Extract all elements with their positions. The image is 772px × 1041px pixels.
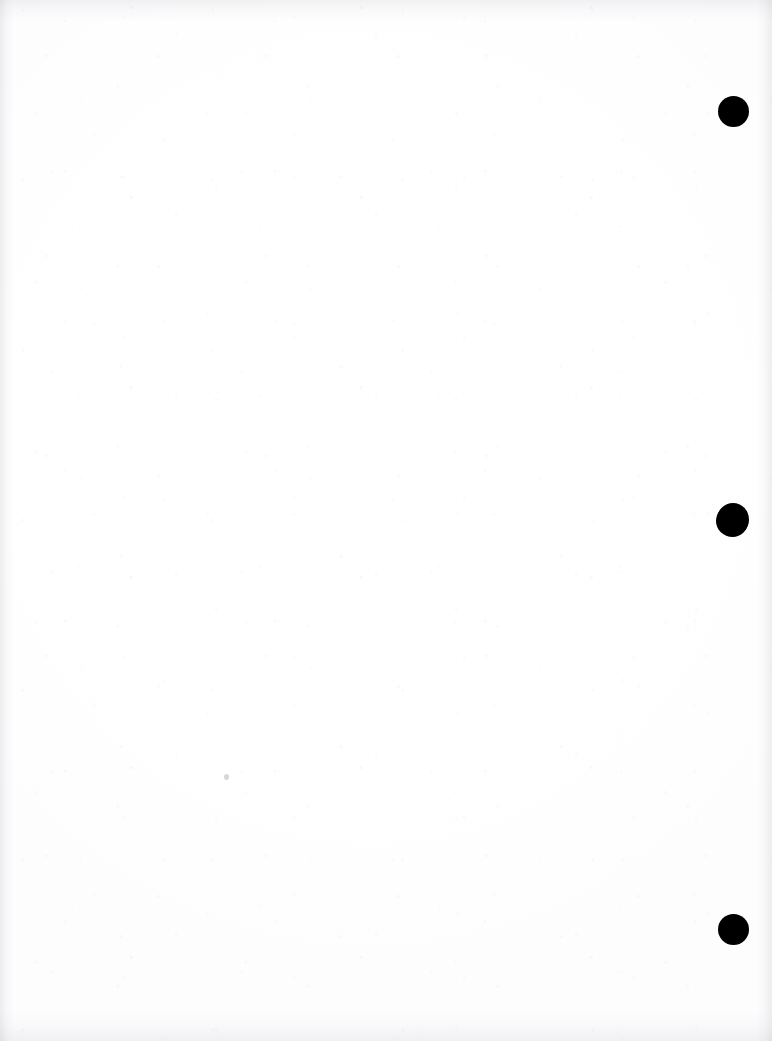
scanned-page [0, 0, 772, 1041]
punch-hole-top [718, 96, 749, 127]
punch-hole-middle [717, 503, 749, 535]
scan-noise-texture [0, 0, 772, 1041]
stray-speck [224, 774, 229, 780]
scan-edge-shadow-bottom [0, 1011, 772, 1041]
scan-edge-shadow-right [756, 0, 772, 1041]
scan-edge-shadow-top [0, 0, 772, 22]
punch-hole-bottom [718, 914, 749, 945]
scan-edge-shadow-left [0, 0, 14, 1041]
